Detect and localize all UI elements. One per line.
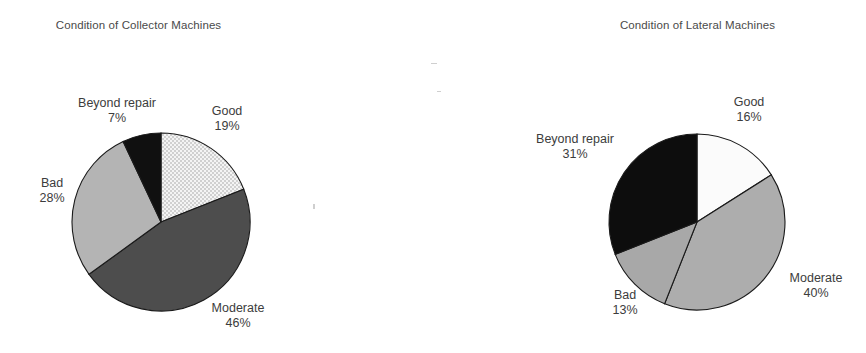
slice-label-bad-collector: Bad 28% <box>26 176 78 206</box>
slice-label-name: Moderate <box>775 271 857 286</box>
chart-panel-collector: Condition of Collector Machines Beyond r… <box>0 0 433 353</box>
slice-label-name: Bad <box>26 176 78 191</box>
slice-label-beyond-repair-lateral: Beyond repair 31% <box>516 132 634 162</box>
slice-label-bad-lateral: Bad 13% <box>599 288 651 318</box>
scan-artifact <box>437 91 441 92</box>
slice-label-percent: 7% <box>57 111 177 126</box>
slice-label-percent: 28% <box>26 191 78 206</box>
slice-label-name: Good <box>196 104 258 119</box>
pie-chart-figure: Condition of Collector Machines Beyond r… <box>0 0 866 353</box>
slice-label-percent: 16% <box>718 110 780 125</box>
slice-label-good-lateral: Good 16% <box>718 95 780 125</box>
slice-label-name: Beyond repair <box>57 96 177 111</box>
slice-label-good-collector: Good 19% <box>196 104 258 134</box>
slice-label-name: Bad <box>599 288 651 303</box>
slice-label-percent: 31% <box>516 147 634 162</box>
slice-label-name: Good <box>718 95 780 110</box>
slice-label-moderate-lateral: Moderate 40% <box>775 271 857 301</box>
slice-label-name: Beyond repair <box>516 132 634 147</box>
scan-artifact <box>431 63 437 64</box>
slice-label-percent: 19% <box>196 119 258 134</box>
slice-label-percent: 46% <box>198 316 278 331</box>
scan-artifact <box>313 204 315 209</box>
slice-label-beyond-repair-collector: Beyond repair 7% <box>57 96 177 126</box>
slice-label-percent: 13% <box>599 303 651 318</box>
slice-label-percent: 40% <box>775 286 857 301</box>
slice-label-moderate-collector: Moderate 46% <box>198 301 278 331</box>
slice-label-name: Moderate <box>198 301 278 316</box>
